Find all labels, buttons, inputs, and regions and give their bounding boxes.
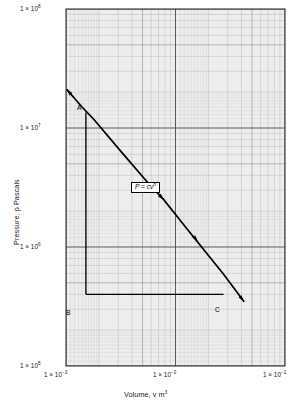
- y-axis-title: Pressure, p Pascals: [12, 179, 21, 245]
- x-tick-label-1e-1: 1 × 10−1: [263, 371, 286, 378]
- annotation-point-b: B: [66, 309, 70, 316]
- y-tick-label-1e7: 1 × 107: [20, 124, 41, 131]
- chart-canvas: [0, 0, 300, 411]
- y-tick-label-1e6: 1 × 106: [20, 243, 41, 250]
- x-axis-title: Volume, v m3: [124, 390, 167, 399]
- annotation-point-a: A: [77, 104, 81, 111]
- pressure-volume-log-log-chart: 1 × 108 1 × 107 1 × 106 1 × 105 1 × 10−3…: [0, 0, 300, 411]
- x-tick-label-1e-2: 1 × 10−2: [153, 371, 176, 378]
- x-tick-label-1e-3: 1 × 10−3: [44, 371, 67, 378]
- annotation-point-c: C: [215, 306, 220, 313]
- y-tick-label-1e5: 1 × 105: [20, 362, 41, 369]
- annotation-equation-label: P = cvn: [131, 182, 160, 193]
- y-tick-label-1e8: 1 × 108: [20, 5, 41, 12]
